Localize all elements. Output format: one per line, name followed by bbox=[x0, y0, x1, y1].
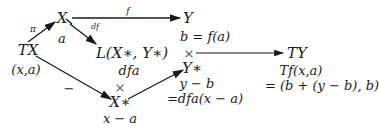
node-X-element: a bbox=[58, 32, 66, 45]
node-TX: TX bbox=[18, 43, 39, 58]
node-TX-element: (x,a) bbox=[11, 63, 40, 76]
node-L: L(X∗, Y∗) bbox=[96, 46, 168, 61]
arrow-minus-label: − bbox=[64, 82, 75, 95]
node-TY: TY bbox=[287, 46, 307, 61]
node-Xstar-element: x − a bbox=[103, 112, 137, 125]
node-TY-element-value: = (b + (y − b), b) bbox=[265, 79, 379, 92]
node-Ystar-element: y − b bbox=[180, 77, 215, 90]
node-L-element: dfa bbox=[119, 64, 140, 77]
node-X: X bbox=[57, 11, 68, 26]
arrow-f-label: f bbox=[126, 7, 129, 16]
node-Y: Y bbox=[183, 11, 193, 26]
arrow-df-label: df bbox=[91, 23, 99, 31]
node-Xstar: X∗ bbox=[110, 95, 131, 110]
node-TY-element: Tf(x,a) bbox=[280, 64, 323, 77]
node-Y-element: b = f(a) bbox=[180, 30, 230, 43]
node-Ystar: Y∗ bbox=[182, 61, 202, 76]
node-Ystar-element-value: =dfa(x − a) bbox=[167, 92, 243, 105]
arrow-pi-label: π bbox=[30, 25, 36, 34]
